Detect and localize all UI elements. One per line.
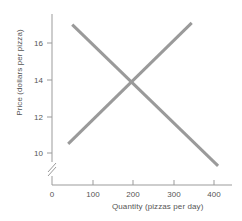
x-tick-label-200: 200	[126, 190, 140, 199]
y-tick-label-10: 10	[34, 149, 43, 158]
series-line-demand	[72, 25, 218, 166]
y-tick-label-12: 12	[34, 113, 43, 122]
series-line-supply	[68, 23, 192, 144]
x-tick-label-400: 400	[207, 190, 221, 199]
series-layer	[68, 23, 218, 166]
x-tick-label-0: 0	[50, 190, 55, 199]
y-axis-break-icon	[48, 163, 56, 176]
y-axis-ticks	[47, 43, 52, 153]
x-axis-title: Quantity (pizzas per day)	[112, 202, 203, 211]
x-tick-label-300: 300	[167, 190, 181, 199]
y-tick-label-14: 14	[34, 76, 43, 85]
chart-canvas: 16 14 12 10 0 100 200 300 400	[0, 0, 242, 221]
supply-demand-chart: 16 14 12 10 0 100 200 300 400 Price (dol…	[0, 0, 242, 221]
x-tick-label-100: 100	[86, 190, 100, 199]
x-axis-ticks	[93, 180, 214, 185]
y-tick-label-16: 16	[34, 39, 43, 48]
y-axis-title: Price (dollars per pizza)	[15, 23, 24, 123]
